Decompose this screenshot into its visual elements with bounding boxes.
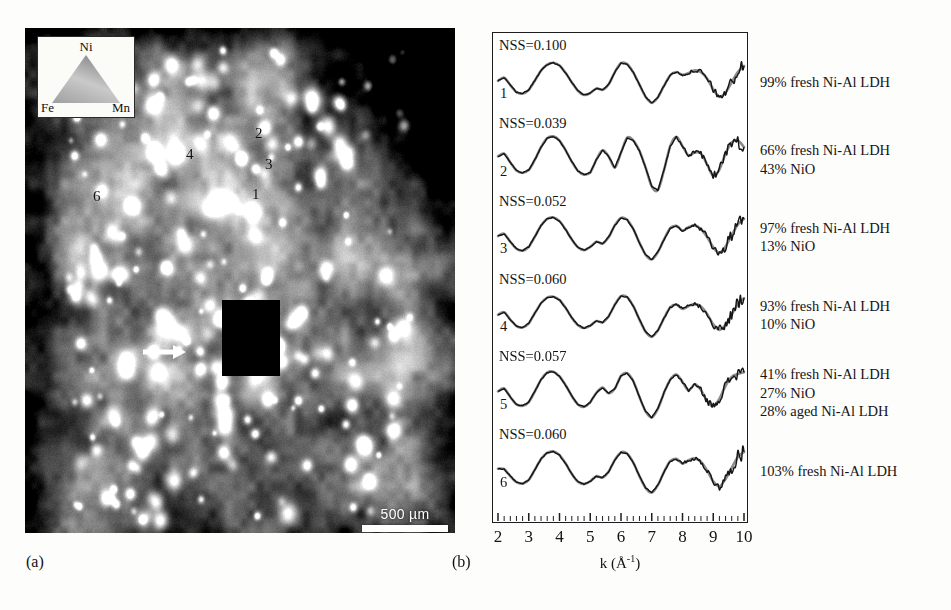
x-tick-label-10: 10: [736, 527, 753, 547]
ternary-label-fe: Fe: [41, 100, 54, 116]
exafs-fit-curve-5: [498, 371, 744, 417]
panel-a-caption: (a): [26, 553, 44, 571]
ternary-label-ni: Ni: [80, 39, 93, 55]
x-tick-label-2: 2: [494, 527, 503, 547]
x-tick-label-3: 3: [525, 527, 534, 547]
annotation-line: 41% fresh Ni-Al LDH: [760, 365, 890, 384]
white-arrow-icon: [143, 344, 187, 360]
x-tick-label-4: 4: [555, 527, 564, 547]
scalebar-label: 500 µm: [362, 506, 448, 522]
exafs-data-curve-2: [498, 137, 744, 191]
x-tick-label-7: 7: [648, 527, 657, 547]
annotation-line: 103% fresh Ni-Al LDH: [760, 462, 897, 481]
annotation-line: 13% NiO: [760, 237, 890, 256]
annotation-block-3: 97% fresh Ni-Al LDH13% NiO: [760, 219, 890, 256]
annotation-line: 99% fresh Ni-Al LDH: [760, 73, 890, 92]
ternary-legend: Ni Fe Mn: [37, 36, 135, 118]
exafs-fit-curve-3: [498, 217, 744, 259]
map-point-marker-3: 3: [265, 156, 273, 173]
map-point-marker-6: 6: [93, 188, 101, 205]
annotation-line: 97% fresh Ni-Al LDH: [760, 219, 890, 238]
map-point-marker-2: 2: [255, 125, 263, 142]
x-tick-label-6: 6: [617, 527, 626, 547]
scalebar-bar: [362, 525, 448, 532]
annotation-block-5: 41% fresh Ni-Al LDH27% NiO28% aged Ni-Al…: [760, 365, 890, 421]
x-axis-title: k (Å-1): [492, 553, 748, 572]
annotation-block-6: 103% fresh Ni-Al LDH: [760, 462, 897, 481]
x-tick-label-8: 8: [678, 527, 687, 547]
exafs-traces: [492, 32, 748, 523]
annotation-line: 28% aged Ni-Al LDH: [760, 402, 890, 421]
spectra-annotations: 99% fresh Ni-Al LDH66% fresh Ni-Al LDH43…: [760, 32, 950, 532]
exafs-fit-curve-1: [498, 62, 744, 102]
panel-b-caption: (b): [452, 553, 471, 571]
x-tick-label-5: 5: [586, 527, 595, 547]
map-point-marker-4: 4: [186, 146, 194, 163]
scalebar: 500 µm: [362, 506, 448, 532]
annotation-line: 27% NiO: [760, 384, 890, 403]
annotation-block-1: 99% fresh Ni-Al LDH: [760, 73, 890, 92]
exafs-data-curve-4: [498, 295, 744, 336]
annotation-line: 93% fresh Ni-Al LDH: [760, 297, 890, 316]
annotation-line: 43% NiO: [760, 160, 890, 179]
elemental-map-panel: Ni Fe Mn 1 2 3 4 6 500 µm: [25, 28, 455, 533]
x-tick-label-9: 9: [709, 527, 718, 547]
ternary-label-mn: Mn: [112, 100, 130, 116]
map-point-marker-1: 1: [252, 186, 260, 203]
annotation-line: 66% fresh Ni-Al LDH: [760, 141, 890, 160]
exafs-spectra-panel: [492, 32, 748, 523]
x-axis-ticks: 2345678910: [492, 527, 748, 549]
annotation-line: 10% NiO: [760, 315, 890, 334]
annotation-block-4: 93% fresh Ni-Al LDH10% NiO: [760, 297, 890, 334]
annotation-block-2: 66% fresh Ni-Al LDH43% NiO: [760, 141, 890, 178]
